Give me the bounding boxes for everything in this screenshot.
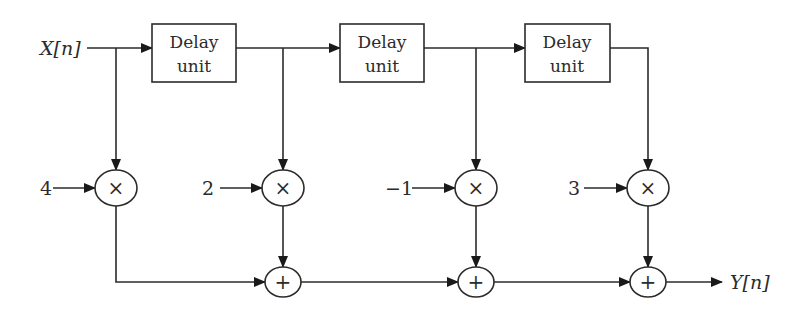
delay-unit-3-line1: Delay [543, 32, 592, 52]
input-label: X[n] [38, 37, 81, 59]
delay-unit-1-line1: Delay [170, 32, 219, 52]
delay-unit-2-line2: unit [365, 56, 399, 76]
multiply-icon: × [640, 176, 657, 200]
fir-filter-diagram: X[n] Delay unit Delay unit Delay unit 4 … [0, 0, 795, 313]
multiplier-2: × [262, 170, 304, 206]
delay-unit-2-line1: Delay [358, 32, 407, 52]
coefficient-minus1-label: −1 [385, 177, 413, 199]
delay-unit-3-line2: unit [550, 56, 584, 76]
multiplier-3: × [455, 170, 497, 206]
coefficient-2-label: 2 [202, 177, 214, 199]
delay-unit-1-line2: unit [177, 56, 211, 76]
adder-2: + [458, 267, 494, 297]
multiply-icon: × [275, 176, 292, 200]
delay-unit-3: Delay unit [525, 24, 610, 82]
adder-3: + [630, 267, 666, 297]
delay3-to-mult4-wire [610, 48, 648, 170]
plus-icon: + [468, 270, 485, 294]
multiplier-1: × [95, 170, 137, 206]
multiply-icon: × [108, 176, 125, 200]
adder-1: + [265, 267, 301, 297]
coefficient-4-label: 4 [40, 177, 52, 199]
plus-icon: + [640, 270, 657, 294]
mult1-to-adder1-wire [116, 206, 265, 282]
coefficient-3-label: 3 [568, 177, 580, 199]
delay-unit-1: Delay unit [152, 24, 236, 82]
plus-icon: + [275, 270, 292, 294]
multiply-icon: × [468, 176, 485, 200]
output-label: Y[n] [730, 271, 770, 293]
delay-unit-2: Delay unit [340, 24, 424, 82]
multiplier-4: × [627, 170, 669, 206]
